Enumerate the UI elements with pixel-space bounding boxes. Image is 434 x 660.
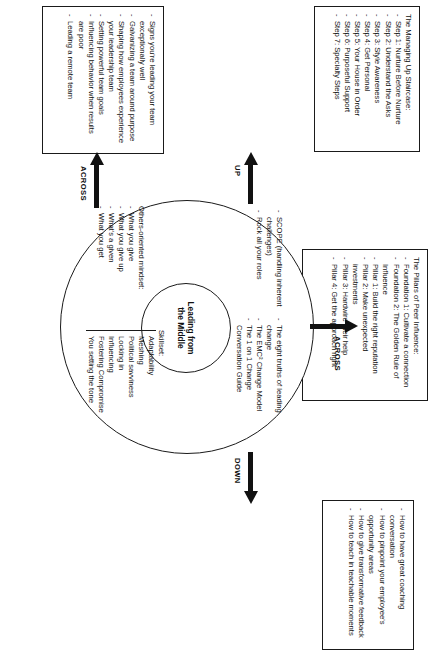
list-item: Step 6: Purposeful Support [342, 14, 352, 144]
list-item: Rock all your roles [254, 210, 264, 332]
cluster-skillset: Skillset: Adaptability Meshing Political… [86, 330, 166, 440]
center-label-line1: Leading from [186, 301, 196, 354]
box-managing-up: The Managing Up Staircase: Step 1: Nurtu… [314, 6, 420, 152]
list-item: What's a given [106, 206, 116, 298]
center-label: Leading fromthe Middle [176, 301, 196, 354]
list-item: Step 3: Style Awareness [372, 14, 382, 144]
arrow-shaft [95, 164, 100, 208]
box-managing-up-list: Step 1: Nurture Before Nurture Step 2: U… [331, 14, 402, 144]
cluster-mindset-heading: Others-oriented mindset: [136, 206, 146, 298]
cluster-skillset-list: Adaptability Meshing Political savviness… [86, 330, 156, 440]
arrowhead [244, 491, 258, 504]
list-item: Influencing [106, 330, 116, 440]
list-item: How to teach in teachable moments [346, 508, 356, 642]
arrow-shaft [310, 324, 347, 329]
list-item: Political savviness [126, 330, 136, 440]
arrow-down-icon [244, 452, 258, 504]
list-item: Step 2: Understand the Asks [382, 14, 392, 144]
cluster-scope-list: SCOPE (handling inherent challenges) Roc… [254, 210, 284, 332]
list-item: Influencing behavior when results are po… [75, 14, 95, 146]
list-item: Pillar 1: Build the right reputation [370, 257, 380, 393]
list-item: Signs you're leading your team exception… [137, 14, 157, 146]
list-item: Galvanizing a team around purpose [126, 14, 136, 146]
list-item: How to give transformative feedback [356, 508, 366, 642]
cluster-change: The eight truths of leading change The E… [234, 318, 284, 436]
list-item: Foundation 2: The Golden Rule of Influen… [380, 257, 400, 393]
cluster-mindset-list: What you give What you give up What's a … [96, 206, 136, 298]
box-leading-team-list: Signs you're leading your team exception… [65, 14, 157, 146]
arrow-label-across-team: ACROSS [79, 166, 88, 201]
arrow-up-icon [244, 152, 258, 204]
cluster-skillset-heading: Skillset: [156, 330, 166, 440]
arrow-across-team-icon [90, 152, 104, 208]
box-leading-down: How to have great coaching conversation … [322, 500, 414, 650]
arrow-label-across-peer: ACROSS [333, 336, 342, 371]
arrow-shaft [249, 164, 254, 204]
box-peer-influence-heading: The Pillars of Peer Influence: [411, 257, 421, 393]
list-item: How to pinpoint your employee's opportun… [366, 508, 386, 642]
box-leading-down-list: How to have great coaching conversation … [346, 508, 407, 642]
diagram-canvas: The Managing Up Staircase: Step 1: Nurtu… [0, 0, 434, 660]
list-item: SCOPE (handling inherent challenges) [264, 210, 284, 332]
list-item: What you give [126, 206, 136, 298]
center-label-line2: the Middle [176, 307, 186, 348]
list-item: Adaptability [146, 330, 156, 440]
arrow-label-up: UP [233, 165, 242, 176]
arrow-across-peer-icon [310, 319, 358, 333]
list-item: How to have great coaching conversation [387, 508, 407, 642]
list-item: Step 5: Your House in Order [352, 14, 362, 144]
cluster-change-list: The eight truths of leading change The E… [234, 318, 284, 436]
list-item: Step 7: Specialty Steps [331, 14, 341, 144]
list-item: Shaping how employees experience your le… [106, 14, 126, 146]
arrow-label-down: DOWN [233, 458, 242, 484]
box-leading-team: Signs you're leading your team exception… [42, 6, 164, 154]
list-item: What you get [96, 206, 106, 298]
list-item: The 1 on 1 Change Conversation Guide [234, 318, 254, 436]
list-item: Step 1: Nurture Before Nurture [393, 14, 403, 144]
arrow-shaft [249, 452, 254, 492]
list-item: Meshing [136, 330, 146, 440]
diagram-content: The Managing Up Staircase: Step 1: Nurtu… [0, 0, 434, 660]
cluster-scope: SCOPE (handling inherent challenges) Roc… [254, 210, 284, 332]
list-item: Locking in [116, 330, 126, 440]
list-item: The eight truths of leading change [264, 318, 284, 436]
list-item: Step 4: Get Personal [362, 14, 372, 144]
list-item: Fostering Compromise [96, 330, 106, 440]
rotated-diagram-wrapper: The Managing Up Staircase: Step 1: Nurtu… [0, 0, 434, 660]
box-managing-up-heading: The Managing Up Staircase: [403, 14, 413, 144]
list-item: Leading a remote team [65, 14, 75, 146]
list-item: What you give up [116, 206, 126, 298]
list-item: You setting the tone [86, 330, 96, 440]
list-item: Setting powerful team goals [96, 14, 106, 146]
list-item: Foundation 1: Cultivate a connection [401, 257, 411, 393]
list-item: The EMC² Change Model [254, 318, 264, 436]
cluster-mindset: Others-oriented mindset: What you give W… [96, 206, 146, 298]
